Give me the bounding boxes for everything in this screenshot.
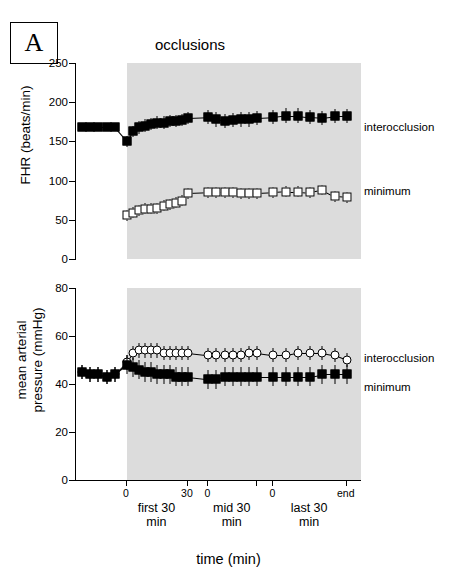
x-tick bbox=[272, 480, 273, 486]
y-tick-label: 0 bbox=[34, 474, 68, 486]
y-tick bbox=[69, 432, 76, 433]
data-point bbox=[177, 196, 186, 205]
data-point bbox=[293, 187, 302, 196]
x-tick-label: 0 bbox=[204, 487, 210, 499]
y-tick bbox=[69, 181, 76, 182]
x-tick bbox=[346, 480, 347, 486]
x-group-caption: last 30min bbox=[291, 501, 328, 530]
data-point bbox=[293, 348, 302, 357]
data-point bbox=[122, 137, 131, 146]
x-tick-label: end bbox=[337, 487, 355, 499]
data-point bbox=[330, 192, 339, 201]
data-point bbox=[318, 113, 327, 122]
data-point bbox=[110, 123, 119, 132]
data-point bbox=[110, 370, 119, 379]
data-point bbox=[253, 113, 262, 122]
data-point bbox=[269, 188, 278, 197]
data-point bbox=[330, 112, 339, 121]
y-tick bbox=[69, 336, 76, 337]
data-point bbox=[183, 113, 192, 122]
data-point bbox=[183, 189, 192, 198]
data-point bbox=[342, 356, 351, 365]
data-point bbox=[306, 372, 315, 381]
data-point bbox=[306, 188, 315, 197]
y-tick-label: 0 bbox=[34, 253, 68, 265]
data-point bbox=[281, 111, 290, 120]
x-tick-label: 30 bbox=[181, 487, 193, 499]
y-tick bbox=[69, 288, 76, 289]
fhr-minimum-label: minimum bbox=[364, 185, 411, 197]
data-point bbox=[318, 370, 327, 379]
map-plot-area: 020406080 bbox=[75, 288, 361, 481]
data-point bbox=[318, 348, 327, 357]
map-minimum-label: minimum bbox=[364, 381, 411, 393]
y-tick-label: 50 bbox=[34, 214, 68, 226]
x-tick bbox=[207, 480, 208, 486]
data-point bbox=[183, 372, 192, 381]
x-tick bbox=[187, 480, 188, 486]
y-tick bbox=[69, 220, 76, 221]
x-tick bbox=[256, 480, 257, 486]
data-point bbox=[342, 112, 351, 121]
data-point bbox=[342, 370, 351, 379]
x-tick-label: 0 bbox=[270, 487, 276, 499]
y-tick bbox=[69, 63, 76, 64]
data-point bbox=[253, 348, 262, 357]
data-point bbox=[281, 187, 290, 196]
data-point bbox=[253, 372, 262, 381]
y-tick bbox=[69, 102, 76, 103]
y-tick-label: 150 bbox=[34, 135, 68, 147]
data-point bbox=[306, 348, 315, 357]
data-point bbox=[330, 351, 339, 360]
x-group-caption: mid 30min bbox=[213, 501, 251, 530]
occlusion-shaded-region bbox=[127, 63, 361, 259]
x-axis-segment bbox=[272, 480, 345, 481]
x-axis-title: time (min) bbox=[0, 551, 457, 567]
y-tick-label: 100 bbox=[34, 175, 68, 187]
x-tick-label: 0 bbox=[123, 487, 129, 499]
data-point bbox=[281, 351, 290, 360]
data-point bbox=[269, 351, 278, 360]
fhr-interocclusion-label: interocclusion bbox=[364, 121, 434, 133]
x-axis-segment bbox=[207, 480, 256, 481]
x-axis-segment bbox=[126, 480, 187, 481]
data-point bbox=[330, 370, 339, 379]
fhr-axis-label: FHR (beats/min) bbox=[18, 60, 33, 210]
data-point bbox=[269, 372, 278, 381]
x-group-caption: first 30min bbox=[138, 501, 176, 530]
data-point bbox=[306, 113, 315, 122]
map-interocclusion-label: interocclusion bbox=[364, 352, 434, 364]
y-tick bbox=[69, 384, 76, 385]
data-point bbox=[293, 372, 302, 381]
map-axis-label: mean arterialpressure (mmHg) bbox=[14, 270, 45, 450]
occlusion-shaded-region-bottom bbox=[127, 288, 361, 480]
x-tick bbox=[126, 480, 127, 486]
data-point bbox=[183, 348, 192, 357]
data-point bbox=[318, 186, 327, 195]
y-tick bbox=[69, 259, 76, 260]
chart-title: occlusions bbox=[155, 36, 225, 53]
data-point bbox=[253, 189, 262, 198]
data-point bbox=[293, 111, 302, 120]
fhr-plot-area: 050100150200250 bbox=[75, 63, 361, 259]
y-tick bbox=[69, 480, 76, 481]
data-point bbox=[269, 113, 278, 122]
data-point bbox=[342, 193, 351, 202]
y-tick bbox=[69, 141, 76, 142]
y-tick-label: 250 bbox=[34, 57, 68, 69]
data-point bbox=[281, 372, 290, 381]
y-tick-label: 200 bbox=[34, 96, 68, 108]
